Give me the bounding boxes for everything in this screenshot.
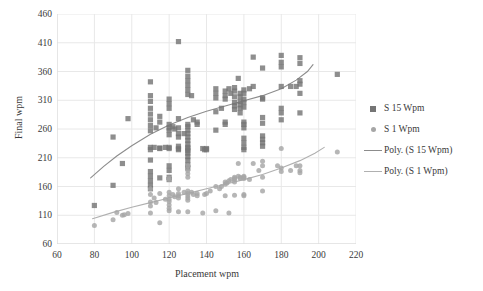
data-point-circle [247, 177, 252, 182]
data-point-circle [232, 179, 237, 184]
data-point-square [120, 161, 125, 166]
data-point-square [213, 86, 218, 91]
data-point-square [236, 76, 241, 81]
data-point-circle [185, 175, 190, 180]
data-point-square [148, 178, 153, 183]
data-point-circle [260, 189, 265, 194]
data-point-circle [157, 220, 162, 225]
data-point-square [92, 203, 97, 208]
data-point-circle [176, 209, 181, 214]
data-point-square [279, 110, 284, 115]
data-point-circle [297, 170, 302, 175]
data-point-square [260, 121, 265, 126]
data-point-square [213, 109, 218, 114]
data-point-square [167, 97, 172, 102]
data-point-square [148, 157, 153, 162]
data-point-square [288, 84, 293, 89]
x-axis-tick-label: 200 [304, 250, 334, 260]
data-point-square [195, 122, 200, 127]
legend-item-label: S 1 Wpm [384, 124, 420, 135]
data-point-square [279, 117, 284, 122]
data-point-square [219, 106, 224, 111]
scatter-chart: Final wpm 60110160210260310360410460 608… [0, 0, 483, 291]
data-point-square [226, 86, 231, 91]
data-point-square [241, 136, 246, 141]
data-point-square [279, 53, 284, 58]
line-swatch-icon [362, 150, 384, 151]
data-point-square [213, 128, 218, 133]
series-s-1-wpm [92, 146, 340, 228]
data-point-circle [92, 223, 97, 228]
legend-item[interactable]: S 1 Wpm [362, 119, 483, 140]
data-point-square [167, 132, 172, 137]
chart-legend: S 15 WpmS 1 WpmPoly. (S 15 Wpm)Poly. (S … [362, 98, 483, 182]
data-point-circle [260, 159, 265, 164]
data-point-square [157, 114, 162, 119]
data-point-square [260, 97, 265, 102]
y-axis-tick-label: 160 [24, 182, 52, 192]
data-point-square [176, 125, 181, 130]
legend-item[interactable]: S 15 Wpm [362, 98, 483, 119]
data-point-circle [260, 163, 265, 168]
data-point-square [153, 125, 158, 130]
data-point-circle [148, 210, 153, 215]
data-point-square [232, 94, 237, 99]
data-point-square [260, 65, 265, 70]
plot-area [57, 14, 356, 244]
y-axis-tick-label: 110 [24, 210, 52, 220]
data-point-square [279, 106, 284, 111]
data-point-circle [111, 217, 116, 222]
x-axis-title: Placement wpm [57, 268, 357, 279]
data-point-square [185, 87, 190, 92]
data-point-circle [154, 200, 159, 205]
data-point-circle [148, 204, 153, 209]
data-point-square [167, 163, 172, 168]
data-point-square [110, 183, 115, 188]
data-point-circle [176, 196, 181, 201]
data-point-square [148, 169, 153, 174]
data-point-square [297, 110, 302, 115]
data-point-square [148, 79, 153, 84]
data-point-square [157, 146, 162, 151]
data-point-circle [279, 146, 284, 151]
data-point-square [185, 83, 190, 88]
data-point-square [335, 72, 340, 77]
data-point-square [297, 55, 302, 60]
data-point-square [251, 55, 256, 60]
data-point-square [213, 95, 218, 100]
data-point-circle [241, 176, 246, 181]
y-axis-tick-label: 460 [24, 9, 52, 19]
data-point-circle [208, 189, 213, 194]
data-point-square [148, 93, 153, 98]
data-point-square [279, 60, 284, 65]
data-point-square [148, 106, 153, 111]
x-axis-tick-label: 160 [229, 250, 259, 260]
x-axis-tick-label: 120 [154, 250, 184, 260]
data-point-square [241, 91, 246, 96]
data-point-square [185, 74, 190, 79]
data-point-square [176, 116, 181, 121]
x-axis-tick-labels: 6080100120140160180200220 [0, 250, 483, 264]
legend-item[interactable]: Poly. (S 1 Wpm) [362, 161, 483, 182]
line-swatch-icon [362, 171, 384, 172]
data-point-circle [288, 168, 293, 173]
data-point-circle [176, 186, 181, 191]
data-point-square [297, 82, 302, 87]
data-point-circle [226, 210, 231, 215]
data-point-circle [167, 208, 172, 213]
data-point-square [110, 134, 115, 139]
legend-item-label: S 15 Wpm [384, 103, 424, 114]
y-axis-tick-label: 360 [24, 67, 52, 77]
data-point-square [251, 84, 256, 89]
data-point-square [148, 174, 153, 179]
data-point-square [185, 157, 190, 162]
data-point-circle [167, 177, 172, 182]
data-point-square [232, 107, 237, 112]
data-point-square [241, 125, 246, 130]
legend-item[interactable]: Poly. (S 15 Wpm) [362, 140, 483, 161]
data-point-square [213, 91, 218, 96]
data-point-square [189, 93, 194, 98]
data-point-square [279, 64, 284, 69]
data-point-square [148, 117, 153, 122]
data-point-circle [185, 163, 190, 168]
